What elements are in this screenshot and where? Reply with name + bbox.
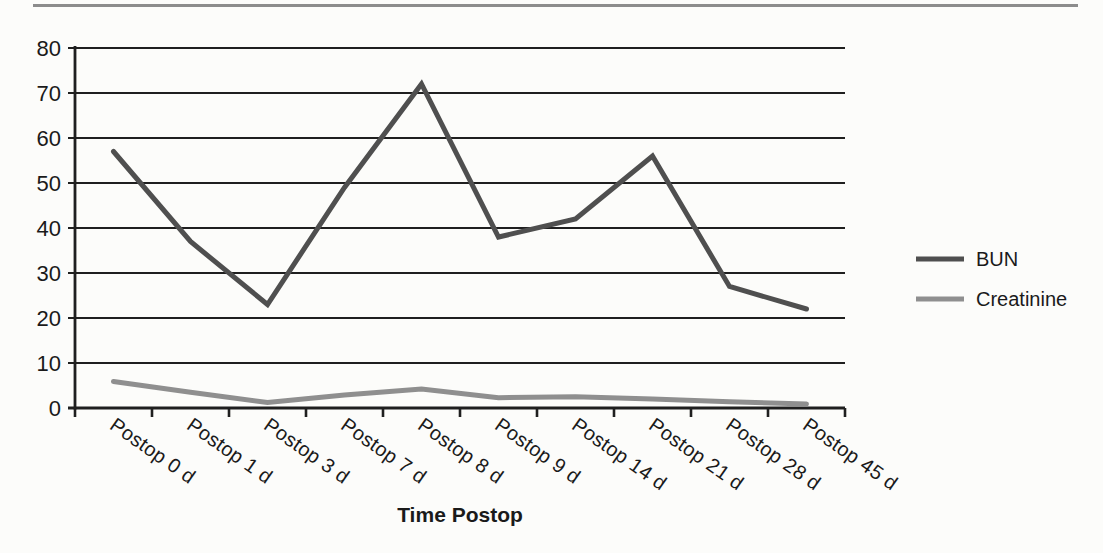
x-tick-label: Postop 3 d <box>260 413 353 488</box>
bun-line <box>114 84 807 309</box>
series-layer <box>114 84 807 404</box>
x-axis-title: Time Postop <box>397 503 523 526</box>
legend-label: Creatinine <box>976 288 1067 310</box>
legend-item: BUN <box>916 248 1018 270</box>
y-tick-label: 30 <box>37 261 61 286</box>
x-tick-label: Postop 0 d <box>106 413 199 488</box>
x-tick-label: Postop 7 d <box>337 413 430 488</box>
y-tick-label: 70 <box>37 81 61 106</box>
y-tick-label: 0 <box>49 396 61 421</box>
legend: BUNCreatinine <box>916 248 1067 310</box>
y-tick-label: 10 <box>37 351 61 376</box>
legend-label: BUN <box>976 248 1018 270</box>
x-tick-label: Postop 9 d <box>491 413 584 488</box>
y-tick-label: 50 <box>37 171 61 196</box>
bun-creatinine-line-chart: 01020304050607080Postop 0 dPostop 1 dPos… <box>0 0 1103 553</box>
gridlines-layer <box>68 48 845 363</box>
x-tick-label: Postop 8 d <box>414 413 507 488</box>
creatinine-line <box>114 381 807 404</box>
legend-item: Creatinine <box>916 288 1067 310</box>
y-tick-label: 60 <box>37 126 61 151</box>
y-tick-label: 40 <box>37 216 61 241</box>
x-tick-label: Postop 1 d <box>183 413 276 488</box>
y-tick-label: 80 <box>37 36 61 61</box>
axis-labels-layer: 01020304050607080Postop 0 dPostop 1 dPos… <box>37 36 902 526</box>
y-tick-label: 20 <box>37 306 61 331</box>
